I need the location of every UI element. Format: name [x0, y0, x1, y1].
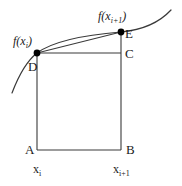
- axis-label-x-i: xi: [33, 163, 41, 178]
- point-marker-d: [34, 50, 41, 57]
- vertex-label-d: D: [28, 60, 37, 73]
- vertex-label-c: C: [125, 47, 134, 60]
- point-marker-e: [118, 29, 125, 36]
- vertex-label-b: B: [126, 143, 135, 156]
- chord-line-DE: [37, 32, 121, 53]
- vertex-label-a: A: [25, 143, 34, 156]
- function-label-f-xi-plus-1: f(xi+1): [98, 10, 126, 25]
- axis-label-x-i-plus-1: xi+1: [113, 163, 130, 178]
- diagram-canvas: [0, 0, 182, 186]
- trapezoid-rule-diagram: f(xi) f(xi+1) E C D A B xi xi+1: [0, 0, 182, 186]
- vertex-label-e: E: [125, 27, 133, 40]
- function-label-f-xi: f(xi): [13, 35, 32, 50]
